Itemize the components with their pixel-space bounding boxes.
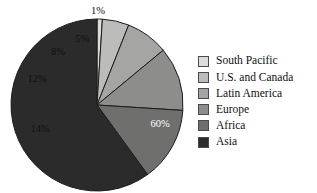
legend-item-label: Africa [216,120,245,132]
legend-item[interactable]: Asia [198,134,317,150]
pie-slice-value-label: 14% [30,123,50,134]
pie-slice-value-label: 8% [51,46,65,57]
legend-item-label: South Pacific [216,55,278,67]
pie-slice-value-label: 12% [27,73,47,84]
legend-item[interactable]: Europe [198,102,317,118]
legend-item-label: U.S. and Canada [216,72,293,84]
legend-color-swatch [198,56,209,67]
legend-item-label: Latin America [216,88,282,100]
legend-color-swatch [198,137,209,148]
legend-color-swatch [198,120,209,131]
pie-chart-area: 1%5%8%12%14%60% [0,0,200,193]
pie-chart-figure: 1%5%8%12%14%60% South PacificU.S. and Ca… [0,0,317,193]
pie-slice-value-label: 60% [150,118,170,129]
legend-item-label: Europe [216,104,249,116]
pie-slice-group [11,19,183,191]
legend-item[interactable]: U.S. and Canada [198,69,317,85]
legend-item[interactable]: South Pacific [198,53,317,69]
legend-color-swatch [198,72,209,83]
chart-legend: South PacificU.S. and CanadaLatin Americ… [198,53,317,150]
legend-item-label: Asia [216,136,237,148]
legend-color-swatch [198,104,209,115]
legend-item[interactable]: Latin America [198,85,317,101]
pie-chart-svg: 1%5%8%12%14%60% [0,0,200,193]
legend-color-swatch [198,88,209,99]
pie-slice-value-label: 1% [91,5,105,16]
legend-item[interactable]: Africa [198,118,317,134]
pie-slice-value-label: 5% [75,33,89,44]
